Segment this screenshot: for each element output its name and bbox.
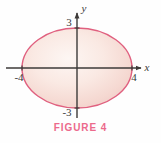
x-axis-label: x: [144, 61, 150, 73]
y-tick-label-neg3: -3: [62, 106, 72, 118]
x-tick-label-pos4: 4: [131, 71, 137, 83]
x-tick-label-neg4: -4: [14, 71, 24, 83]
y-axis-label: y: [81, 2, 87, 14]
figure-caption: FIGURE 4: [0, 122, 161, 133]
figure-container: x y -4 4 3 -3 FIGURE 4: [0, 0, 161, 143]
y-tick-label-pos3: 3: [66, 16, 72, 28]
